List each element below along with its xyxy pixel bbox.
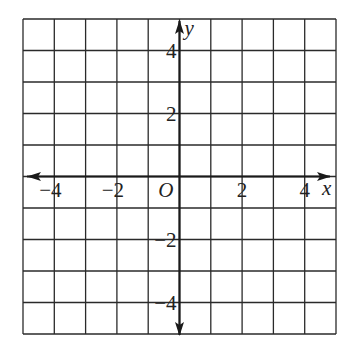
x-tick-label: 4: [299, 178, 310, 202]
y-tick-label: 4: [166, 39, 177, 63]
y-axis-label: y: [183, 16, 195, 40]
origin-label: O: [158, 178, 173, 202]
y-tick-label: −2: [154, 228, 176, 252]
tick-labels: x y O −4 −2 2 4 4 2 −2 −4: [39, 16, 332, 315]
x-tick-label: 2: [237, 178, 248, 202]
coordinate-plane: x y O −4 −2 2 4 4 2 −2 −4: [0, 0, 351, 340]
x-tick-label: −2: [102, 178, 124, 202]
x-tick-label: −4: [39, 178, 62, 202]
y-tick-label: −4: [154, 291, 177, 315]
axes: [27, 20, 331, 336]
y-tick-label: 2: [166, 102, 177, 126]
x-axis-label: x: [321, 176, 332, 200]
